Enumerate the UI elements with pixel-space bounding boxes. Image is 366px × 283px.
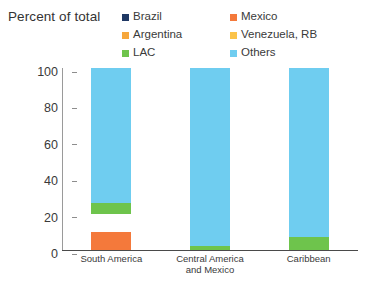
x-axis-category-label-line: Central America (161, 254, 260, 265)
x-axis-category-label-line: Caribbean (259, 254, 358, 265)
legend-item-label: Venezuela, RB (241, 29, 317, 41)
bar-segment[interactable] (91, 68, 131, 203)
bar-segment[interactable] (289, 68, 329, 237)
bar-segment[interactable] (289, 237, 329, 250)
x-axis-line (62, 250, 358, 251)
x-axis-category-label: Caribbean (259, 254, 358, 265)
legend-swatch-lac (122, 50, 129, 57)
legend-item-label: Others (241, 47, 276, 59)
legend-item-label: Argentina (133, 29, 182, 41)
bar-stack[interactable] (91, 68, 131, 250)
y-axis-tick-label: 60 (12, 138, 58, 152)
bar-stack[interactable] (190, 68, 230, 250)
stacked-bar-chart: Percent of total BrazilMexicoArgentinaVe… (0, 0, 366, 283)
chart-legend: BrazilMexicoArgentinaVenezuela, RBLACOth… (122, 8, 366, 62)
y-axis-tick-label: 100 (12, 65, 58, 79)
legend-item-label: Mexico (241, 11, 277, 23)
legend-swatch-others (230, 50, 237, 57)
legend-swatch-mexico (230, 14, 237, 21)
legend-item[interactable]: LAC (122, 44, 230, 62)
legend-swatch-venezuela (230, 32, 237, 39)
bar-segment[interactable] (190, 246, 230, 250)
legend-item[interactable]: Venezuela, RB (230, 26, 366, 44)
bar-series-container (62, 68, 358, 250)
bar-stack[interactable] (289, 68, 329, 250)
y-axis-tick-label: 20 (12, 211, 58, 225)
x-axis-category-label-line: South America (62, 254, 161, 265)
bar-segment[interactable] (190, 68, 230, 246)
y-axis: 020406080100 (12, 68, 58, 250)
y-axis-tick-label: 40 (12, 174, 58, 188)
legend-item[interactable]: Others (230, 44, 366, 62)
legend-swatch-argentina (122, 32, 129, 39)
plot-area: 020406080100 South AmericaCentral Americ… (0, 64, 366, 283)
chart-header: Percent of total BrazilMexicoArgentinaVe… (0, 0, 366, 64)
x-axis-labels: South AmericaCentral Americaand MexicoCa… (62, 254, 358, 283)
legend-item[interactable]: Brazil (122, 8, 230, 26)
bar-segment[interactable] (91, 214, 131, 232)
legend-swatch-brazil (122, 14, 129, 21)
legend-item[interactable]: Argentina (122, 26, 230, 44)
x-axis-category-label-line: and Mexico (161, 265, 260, 276)
x-axis-category-label: South America (62, 254, 161, 265)
bar-group (91, 68, 131, 250)
legend-item-label: LAC (133, 47, 155, 59)
legend-item[interactable]: Mexico (230, 8, 366, 26)
legend-item-label: Brazil (133, 11, 162, 23)
bar-group (190, 68, 230, 250)
y-axis-tick-label: 80 (12, 101, 58, 115)
bar-segment[interactable] (91, 232, 131, 250)
x-axis-category-label: Central Americaand Mexico (161, 254, 260, 275)
y-axis-tick-label: 0 (12, 247, 58, 261)
bar-group (289, 68, 329, 250)
bar-segment[interactable] (91, 203, 131, 214)
chart-title: Percent of total (8, 9, 100, 24)
